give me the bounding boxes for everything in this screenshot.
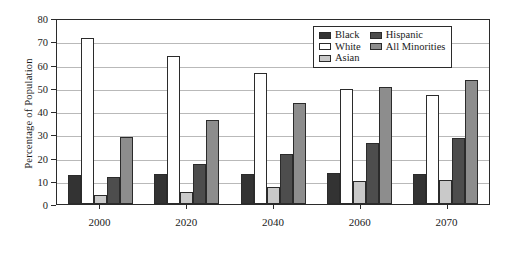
y-tick-label: 0 — [43, 200, 48, 211]
legend-swatch-allmin-icon — [370, 43, 382, 50]
x-tick-label: 2060 — [316, 216, 403, 228]
y-tick-label: 60 — [38, 60, 49, 71]
bar-asian-2020 — [180, 192, 193, 204]
legend-label: Asian — [335, 53, 360, 64]
bar-group — [57, 20, 143, 204]
bar-allmin-2060 — [379, 87, 392, 204]
legend-swatch-white-icon — [319, 43, 331, 50]
y-tick-label: 70 — [38, 37, 49, 48]
bar-black-2060 — [327, 173, 340, 204]
x-tick-mark — [447, 205, 448, 209]
bar-white-2020 — [167, 56, 180, 204]
bar-allmin-2070 — [465, 80, 478, 204]
bar-hispanic-2020 — [193, 164, 206, 204]
bar-chart-figure: Percentage of Population 010203040506070… — [0, 0, 505, 256]
legend-item-black: Black — [319, 30, 361, 41]
bar-black-2020 — [154, 174, 167, 204]
x-tick-group: 2060 — [316, 205, 403, 235]
x-tick-mark — [273, 205, 274, 209]
x-tick-group: 2040 — [230, 205, 317, 235]
bar-allmin-2000 — [120, 137, 133, 204]
bar-white-2040 — [254, 73, 267, 204]
bar-hispanic-2060 — [366, 143, 379, 204]
legend-item-hispanic: Hispanic — [370, 30, 446, 41]
x-tick-label: 2020 — [143, 216, 230, 228]
bar-hispanic-2000 — [107, 177, 120, 204]
legend-item-asian: Asian — [319, 53, 361, 64]
legend-item-white: White — [319, 42, 361, 53]
y-tick-label: 10 — [38, 176, 49, 187]
bar-group — [143, 20, 229, 204]
legend-label: Hispanic — [386, 30, 423, 41]
legend-swatch-black-icon — [319, 32, 331, 39]
x-tick-group: 2000 — [56, 205, 143, 235]
bar-asian-2000 — [94, 195, 107, 204]
y-tick-label: 80 — [38, 14, 49, 25]
chart-legend: BlackHispanicWhiteAll MinoritiesAsian — [313, 26, 452, 68]
bar-asian-2040 — [267, 187, 280, 204]
x-tick-label: 2040 — [230, 216, 317, 228]
x-tick-group: 2020 — [143, 205, 230, 235]
x-axis-ticks: 20002020204020602070 — [56, 205, 490, 235]
x-tick-label: 2070 — [403, 216, 490, 228]
bar-asian-2070 — [439, 180, 452, 204]
bar-hispanic-2070 — [452, 138, 465, 204]
legend-label: White — [335, 42, 361, 53]
bar-black-2040 — [241, 174, 254, 204]
y-tick-label: 30 — [38, 130, 49, 141]
x-tick-label: 2000 — [56, 216, 143, 228]
bar-black-2000 — [68, 175, 81, 204]
x-tick-mark — [360, 205, 361, 209]
x-tick-mark — [99, 205, 100, 209]
legend-label: Black — [335, 30, 360, 41]
bar-hispanic-2040 — [280, 154, 293, 204]
bar-allmin-2040 — [293, 103, 306, 204]
bar-white-2070 — [426, 95, 439, 204]
x-tick-group: 2070 — [403, 205, 490, 235]
legend-swatch-hispanic-icon — [370, 32, 382, 39]
bar-group — [230, 20, 316, 204]
legend-item-allmin: All Minorities — [370, 42, 446, 53]
bar-white-2060 — [340, 89, 353, 204]
legend-swatch-asian-icon — [319, 55, 331, 62]
bar-allmin-2020 — [206, 120, 219, 204]
y-tick-label: 20 — [38, 153, 49, 164]
x-tick-mark — [186, 205, 187, 209]
bar-asian-2060 — [353, 181, 366, 204]
legend-label: All Minorities — [386, 42, 446, 53]
y-tick-label: 40 — [38, 107, 49, 118]
bar-black-2070 — [413, 174, 426, 204]
y-tick-label: 50 — [38, 83, 49, 94]
bar-white-2000 — [81, 38, 94, 204]
y-axis-ticks: 01020304050607080 — [0, 19, 56, 205]
